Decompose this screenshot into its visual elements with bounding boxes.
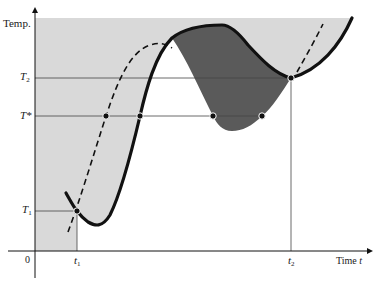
point-tstar-solid-1 (137, 113, 143, 119)
point-tstar-solid-2 (210, 113, 216, 119)
t1-label: T1 (22, 204, 32, 217)
origin-label: 0 (25, 255, 30, 265)
temperature-time-diagram (0, 0, 380, 283)
point-tstar-dashed (103, 113, 109, 119)
point-t1 (74, 208, 80, 214)
y-axis-label: Temp. (3, 18, 31, 29)
x-axis-label: Time t (336, 256, 362, 266)
t2-label: T2 (20, 71, 30, 84)
tstar-label: T* (20, 110, 32, 121)
t1-time-label: t1 (74, 255, 81, 268)
t2-time-label: t2 (288, 255, 295, 268)
point-tstar-solid-3 (259, 113, 265, 119)
point-t2 (288, 75, 294, 81)
